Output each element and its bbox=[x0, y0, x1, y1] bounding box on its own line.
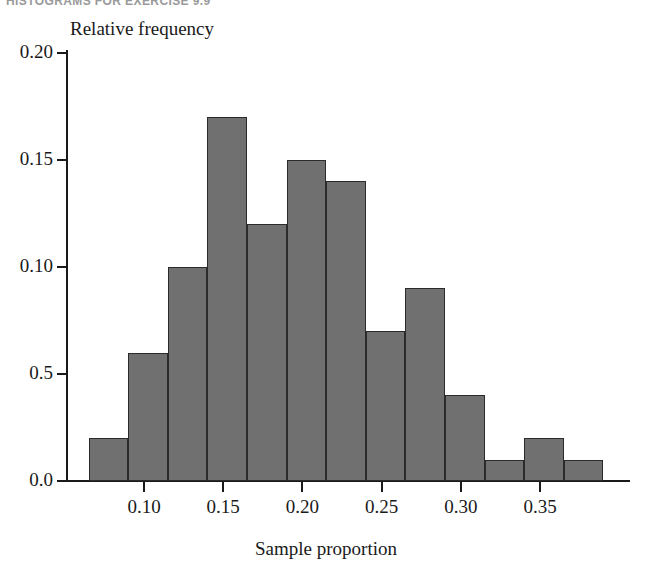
y-axis-line bbox=[66, 50, 68, 482]
histogram-bar bbox=[524, 438, 564, 481]
histogram-bar bbox=[564, 460, 604, 481]
x-axis-tick-label: 0.35 bbox=[510, 496, 570, 518]
x-axis-tick-label: 0.10 bbox=[114, 496, 174, 518]
histogram-bar bbox=[445, 395, 485, 481]
y-axis-tick-label: 0.5 bbox=[0, 363, 53, 382]
y-axis-tick bbox=[57, 373, 66, 375]
y-axis-tick bbox=[57, 52, 66, 54]
y-axis-tick bbox=[57, 159, 66, 161]
histogram-bar bbox=[207, 117, 247, 481]
x-axis-tick bbox=[381, 482, 383, 492]
histogram-bar bbox=[89, 438, 129, 481]
histogram-bar bbox=[326, 181, 366, 481]
x-axis-title: Sample proportion bbox=[0, 538, 652, 560]
histogram-bar bbox=[287, 160, 327, 481]
histogram-bar bbox=[168, 267, 208, 481]
y-axis-tick-label: 0.10 bbox=[0, 256, 53, 275]
histogram-bar bbox=[485, 460, 525, 481]
x-axis-tick-label: 0.25 bbox=[352, 496, 412, 518]
x-axis-tick-label: 0.30 bbox=[431, 496, 491, 518]
x-axis-tick bbox=[539, 482, 541, 492]
y-axis-tick bbox=[57, 266, 66, 268]
x-axis-tick bbox=[460, 482, 462, 492]
x-axis-tick bbox=[301, 482, 303, 492]
histogram-plot: Relative frequency 0.200.150.100.50.0 0.… bbox=[0, 0, 652, 578]
x-axis-tick-label: 0.20 bbox=[272, 496, 332, 518]
y-axis-tick-label: 0.0 bbox=[0, 470, 53, 489]
y-axis-tick-label: 0.20 bbox=[0, 42, 53, 61]
histogram-bar bbox=[247, 224, 287, 481]
y-axis-tick bbox=[57, 480, 66, 482]
x-axis-tick bbox=[143, 482, 145, 492]
chart-page: HISTOGRAMS FOR EXERCISE 9.9 Relative fre… bbox=[0, 0, 652, 578]
y-axis-title: Relative frequency bbox=[70, 18, 214, 40]
x-axis-tick-label: 0.15 bbox=[193, 496, 253, 518]
y-axis-tick-label: 0.15 bbox=[0, 149, 53, 168]
histogram-bar bbox=[366, 331, 406, 481]
histogram-bar bbox=[405, 288, 445, 481]
x-axis-tick bbox=[222, 482, 224, 492]
histogram-bar bbox=[128, 353, 168, 481]
